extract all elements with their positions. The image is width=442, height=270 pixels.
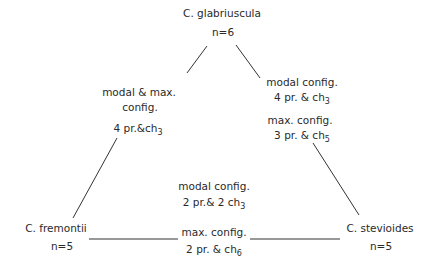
edge-top-to-left-lower [73,138,117,218]
edge-bottom-modal-label: modal config. [178,180,249,193]
node-glabriuscula-name: C. glabriuscula [183,7,261,20]
edge-top-to-left-upper [187,46,207,73]
edge-right-max-config: 3 pr. & ch5 [274,129,330,142]
edge-bottom-modal-config: 2 pr.& 2 ch3 [183,196,245,209]
edge-left-config: 4 pr.&ch3 [113,122,162,135]
edge-top-to-right-upper [236,45,260,78]
edge-right-max-label: max. config. [267,114,332,127]
edge-left-label-line1: modal & max. [102,86,176,99]
node-glabriuscula-count: n=6 [212,26,234,39]
edge-bottom-max-config: 2 pr. & ch6 [186,243,242,256]
edge-bottom-max-label: max. config. [181,226,246,239]
node-fremontii-name: C. fremontii [25,222,87,235]
node-stevioides-name: C. stevioides [346,222,413,235]
edge-left-label-line2: config. [122,101,157,114]
edge-right-modal-config: 4 pr. & ch3 [274,91,330,104]
node-stevioides-count: n=5 [370,240,392,253]
node-fremontii-count: n=5 [51,240,73,253]
edge-right-modal-label: modal config. [266,76,337,89]
edge-top-to-right-lower [313,143,359,215]
